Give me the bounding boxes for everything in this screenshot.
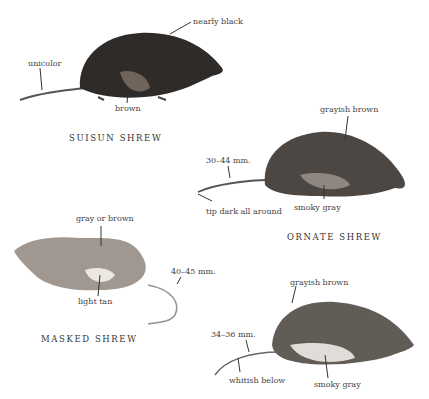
label-gray-or-brown: gray or brown	[76, 214, 134, 223]
species-title-masked: MASKED SHREW	[41, 334, 138, 344]
label-grayish-brown-fourth: grayish brown	[290, 278, 348, 287]
masked-shrew-illustration	[14, 226, 181, 324]
label-unicolor: unicolor	[28, 59, 61, 68]
label-whitish-below: whitish below	[229, 376, 285, 385]
label-tail-length-masked: 40–45 mm.	[171, 267, 216, 276]
label-nearly-black: nearly black	[193, 17, 243, 26]
label-tail-length-ornate: 30–44 mm.	[206, 156, 251, 165]
label-brown: brown	[115, 104, 141, 113]
species-title-suisun: SUISUN SHREW	[69, 133, 162, 143]
label-tip-dark: tip dark all around	[206, 207, 282, 216]
species-title-ornate: ORNATE SHREW	[287, 232, 382, 242]
label-light-tan: light tan	[78, 297, 112, 306]
label-tail-length-fourth: 34–36 mm.	[211, 330, 256, 339]
label-smoky-gray-fourth: smoky gray	[314, 380, 361, 389]
label-smoky-gray-ornate: smoky gray	[294, 203, 341, 212]
label-grayish-brown-ornate: grayish brown	[320, 105, 378, 114]
